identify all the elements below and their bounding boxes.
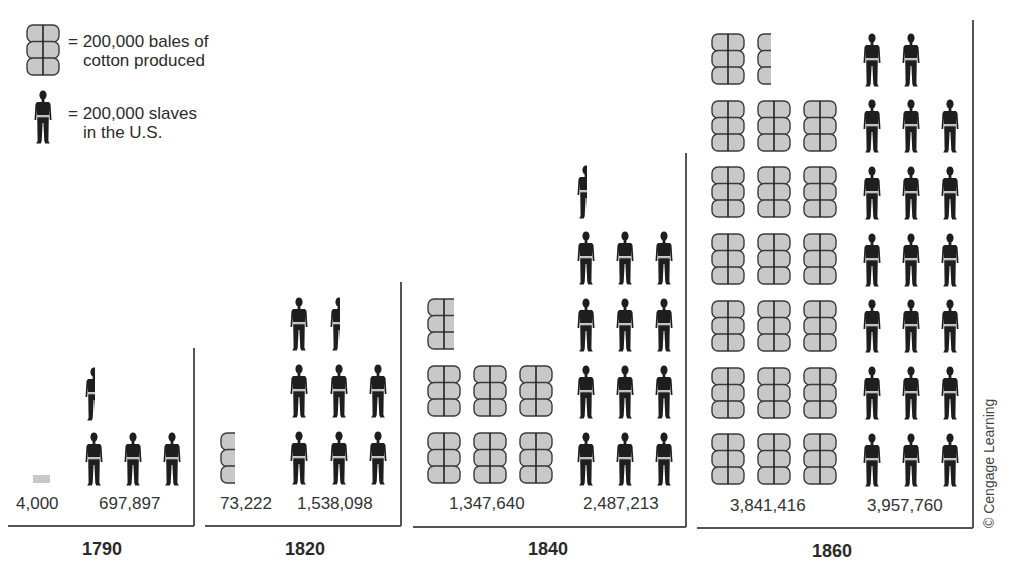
cotton-bale-icon (711, 166, 745, 218)
year-label-1840: 1840 (528, 539, 568, 560)
cotton-value-1840: 1,347,640 (449, 494, 525, 514)
slave-figure-partial-icon (84, 367, 104, 423)
legend-bale-line1: = 200,000 bales of (68, 32, 208, 51)
slave-figure-icon (289, 297, 309, 353)
slave-figure-icon (289, 364, 309, 420)
year-label-1820: 1820 (285, 539, 325, 560)
slave-figure-icon (940, 233, 960, 289)
panel-1790-border (193, 348, 195, 526)
legend-bale-line2: cotton produced (68, 51, 208, 70)
cotton-bale-icon (757, 100, 791, 152)
cotton-bale-icon (803, 300, 837, 352)
slave-figure-icon (329, 297, 349, 353)
slave-figure-icon (940, 299, 960, 355)
slave-figure-icon (901, 433, 921, 489)
panel-1820-baseline (205, 525, 401, 527)
cotton-bale-icon (757, 367, 791, 419)
slave-figure-icon (862, 233, 882, 289)
slave-figure-partial-icon (576, 165, 596, 221)
cotton-bale-icon (803, 166, 837, 218)
slaves-value-1840: 2,487,213 (583, 494, 659, 514)
slaves-value-1860: 3,957,760 (867, 496, 943, 516)
cotton-bale-icon (803, 433, 837, 485)
slave-figure-icon (123, 432, 143, 488)
slave-figure-icon (901, 99, 921, 155)
slave-figure-icon (901, 166, 921, 222)
panel-1820-border (400, 282, 402, 526)
cotton-bale-icon (757, 233, 791, 285)
slave-figure-icon (901, 33, 921, 89)
slave-figure-icon (862, 166, 882, 222)
slave-figure-icon (162, 432, 182, 488)
slave-figure-icon (862, 366, 882, 422)
slave-figure-icon (615, 298, 635, 354)
slave-figure-icon (654, 432, 674, 488)
panel-1790-baseline (8, 525, 194, 527)
cotton-bale-icon (473, 365, 507, 417)
cotton-bale-icon (519, 432, 553, 484)
cotton-bale-icon (427, 432, 461, 484)
cotton-bale-icon (711, 300, 745, 352)
cotton-bale-icon (26, 24, 60, 76)
slave-figure-icon (940, 99, 960, 155)
slave-figure-icon (901, 233, 921, 289)
cotton-value-1790: 4,000 (16, 494, 59, 514)
slave-figure-icon (940, 166, 960, 222)
slave-figure-icon (901, 299, 921, 355)
slave-figure-icon (329, 431, 349, 487)
cotton-bale-icon (519, 365, 553, 417)
cotton-bale-icon (803, 233, 837, 285)
slave-figure-icon (368, 431, 388, 487)
slave-figure-icon (654, 231, 674, 287)
slaves-value-1820: 1,538,098 (297, 494, 373, 514)
cotton-bale-icon (711, 33, 745, 85)
slave-figure-icon (940, 366, 960, 422)
slave-figure-icon (654, 298, 674, 354)
copyright-credit: © Cengage Learning (981, 399, 997, 528)
cotton-value-1820: 73,222 (220, 494, 272, 514)
legend-slave-text: = 200,000 slaves in the U.S. (68, 104, 197, 142)
cotton-bale-icon (757, 300, 791, 352)
slaves-value-1790: 697,897 (99, 494, 160, 514)
cotton-bale-icon (711, 367, 745, 419)
cotton-bale-partial-icon (427, 298, 454, 350)
panel-1840-border (685, 153, 687, 527)
cotton-value-1860: 3,841,416 (730, 496, 806, 516)
slave-figure-icon (368, 364, 388, 420)
cotton-bale-icon (757, 166, 791, 218)
cotton-bale-icon (427, 365, 461, 417)
cotton-bale-icon (757, 433, 791, 485)
slave-figure-icon (615, 432, 635, 488)
legend-bale-text: = 200,000 bales of cotton produced (68, 32, 208, 70)
slave-figure-icon (576, 298, 596, 354)
year-label-1790: 1790 (82, 539, 122, 560)
cotton-bale-icon (803, 367, 837, 419)
cotton-bale-fraction-icon (33, 475, 50, 483)
slave-figure-icon (576, 432, 596, 488)
slave-figure-icon (862, 99, 882, 155)
panel-1860-baseline (697, 527, 973, 529)
slave-figure-icon (862, 33, 882, 89)
year-label-1860: 1860 (812, 541, 852, 562)
cotton-bale-partial-icon (757, 33, 771, 85)
slave-figure-icon (862, 299, 882, 355)
slave-figure-icon (615, 231, 635, 287)
cotton-bale-icon (711, 233, 745, 285)
slave-figure-icon (901, 366, 921, 422)
cotton-bale-icon (711, 433, 745, 485)
slave-figure-icon (289, 431, 309, 487)
slave-figure-icon (654, 365, 674, 421)
slave-figure-icon (329, 364, 349, 420)
slave-figure-icon (576, 365, 596, 421)
cotton-bale-icon (711, 100, 745, 152)
legend: = 200,000 bales of cotton produced = 200… (0, 0, 260, 150)
slave-figure-icon (862, 433, 882, 489)
slave-figure-icon (84, 432, 104, 488)
legend-slave-line1: = 200,000 slaves (68, 104, 197, 123)
panel-1840-baseline (413, 526, 686, 528)
cotton-bale-icon (803, 100, 837, 152)
cotton-bale-partial-icon (220, 432, 235, 484)
slave-figure-icon (576, 231, 596, 287)
panel-1860-border (972, 20, 974, 528)
legend-slave-line2: in the U.S. (68, 123, 197, 142)
